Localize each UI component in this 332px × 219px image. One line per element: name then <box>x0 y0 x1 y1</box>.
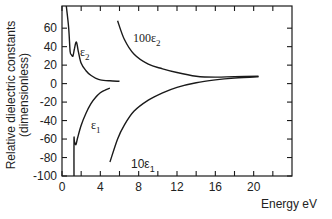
x-tick-label: 4 <box>97 180 104 194</box>
chart-canvas: 0481216206040200-20-40-60-80-100 ε2 ε1 1… <box>0 0 332 219</box>
y-axis-label: Relative dielectric constants (dimension… <box>4 21 31 170</box>
plot-frame <box>62 6 292 176</box>
curve-eps2 <box>66 6 119 81</box>
curve-eps1 <box>74 88 110 176</box>
y-axis-label-line2: (dimensionless) <box>17 53 31 137</box>
x-tick-label: 20 <box>247 180 261 194</box>
x-tick-label: 0 <box>59 180 66 194</box>
y-tick-label: -80 <box>40 151 58 165</box>
y-tick-label: 0 <box>50 77 57 91</box>
x-tick-label: 8 <box>135 180 142 194</box>
label-10eps1: 10ε1 <box>131 157 155 174</box>
y-tick-label: -20 <box>40 95 58 109</box>
label-eps2: ε2 <box>80 45 90 62</box>
label-100eps2: 100ε2 <box>133 31 161 48</box>
curves <box>66 6 258 176</box>
y-tick-label: -100 <box>33 169 57 183</box>
y-axis-label-line1: Relative dielectric constants <box>4 21 18 170</box>
plot-border <box>62 6 292 176</box>
label-eps1: ε1 <box>91 118 101 135</box>
y-tick-label: 40 <box>44 40 58 54</box>
axis-ticks <box>62 6 292 176</box>
curve-10eps1 <box>110 77 259 162</box>
x-axis-label: Energy eV <box>261 197 317 211</box>
x-tick-label: 12 <box>170 180 184 194</box>
y-tick-label: -60 <box>40 132 58 146</box>
y-tick-label: 20 <box>44 58 58 72</box>
y-tick-label: -40 <box>40 114 58 128</box>
y-tick-label: 60 <box>44 21 58 35</box>
curve-100eps2 <box>118 21 259 77</box>
x-tick-label: 16 <box>209 180 223 194</box>
